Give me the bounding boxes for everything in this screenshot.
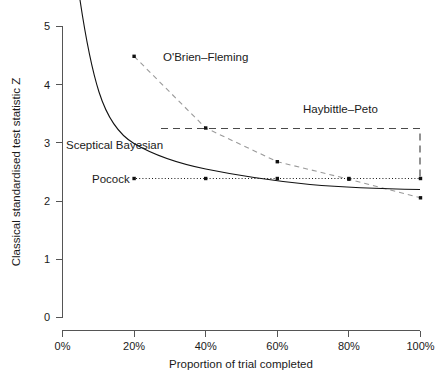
x-axis-title: Proportion of trial completed: [169, 358, 313, 370]
x-tick-label-100: 100%: [406, 340, 434, 352]
x-tick-label-60: 60%: [266, 340, 288, 352]
label-pocock: Pocock: [92, 173, 130, 185]
pocock-point-80: [347, 177, 350, 180]
x-tick-label-20: 20%: [123, 340, 145, 352]
x-tick-label-40: 40%: [195, 340, 217, 352]
y-tick-label-3: 3: [44, 137, 50, 149]
obrien-fleming-point-40: [204, 126, 207, 129]
label-haybittle-peto: Haybittle–Peto: [303, 103, 378, 115]
chart-container: 5 4 3 2 1 0 Classical standardised test …: [0, 0, 441, 376]
y-tick-label-2: 2: [44, 195, 50, 207]
obrien-fleming-line: [134, 56, 420, 198]
pocock-point-40: [204, 177, 207, 180]
pocock-point-60: [276, 177, 279, 180]
y-tick-label-5: 5: [44, 20, 50, 32]
obrien-fleming-point-60: [276, 160, 279, 163]
x-tick-label-80: 80%: [338, 340, 360, 352]
sceptical-bayesian-curve: [80, 0, 420, 190]
statistical-boundaries-chart: 5 4 3 2 1 0 Classical standardised test …: [0, 0, 441, 376]
pocock-point-100: [419, 177, 422, 180]
series-pocock: [132, 177, 422, 180]
y-axis-title: Classical standardised test statistic Z: [10, 78, 22, 267]
x-tick-label-0: 0%: [55, 340, 71, 352]
haybittle-peto-line: [161, 129, 420, 179]
pocock-point-20: [132, 177, 135, 180]
obrien-fleming-point-20: [132, 55, 135, 58]
label-sceptical-bayesian: Sceptical Bayesian: [66, 139, 163, 151]
series-haybittle-peto: [161, 129, 420, 179]
obrien-fleming-point-100: [419, 196, 422, 199]
y-tick-label-0: 0: [44, 311, 50, 323]
y-tick-label-1: 1: [44, 253, 50, 265]
series-sceptical-bayesian: [80, 0, 420, 190]
y-tick-label-4: 4: [44, 79, 50, 91]
label-obrien-fleming: O'Brien–Fleming: [163, 51, 248, 63]
